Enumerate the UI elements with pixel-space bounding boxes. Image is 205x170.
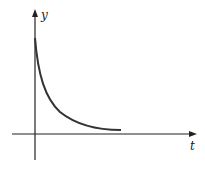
y-axis [32,9,38,160]
x-axis-label: t [190,139,195,153]
y-axis-arrow-icon [32,9,38,17]
x-axis [12,131,197,137]
decay-diagram: y t [0,0,205,170]
decay-curve [35,38,121,130]
y-axis-label: y [40,8,48,22]
x-axis-arrow-icon [189,131,197,137]
